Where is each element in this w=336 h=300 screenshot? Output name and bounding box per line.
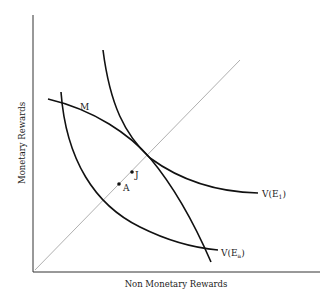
m-curve [48,99,211,262]
v-e1-label: V(E1) [261,189,286,200]
point-j-label: J [134,170,139,180]
diagram: J A M V(E1) V(Ea) Non Monetary Rewards M… [0,0,336,300]
diagonal-line [35,60,240,270]
m-curve-label: M [80,102,89,112]
point-j [130,170,134,174]
point-a [117,182,121,186]
x-axis-label: Non Monetary Rewards [125,279,228,289]
v-ea-label: V(Ea) [220,248,245,259]
point-a-label: A [122,183,130,193]
y-axis-label: Monetary Rewards [17,102,27,184]
